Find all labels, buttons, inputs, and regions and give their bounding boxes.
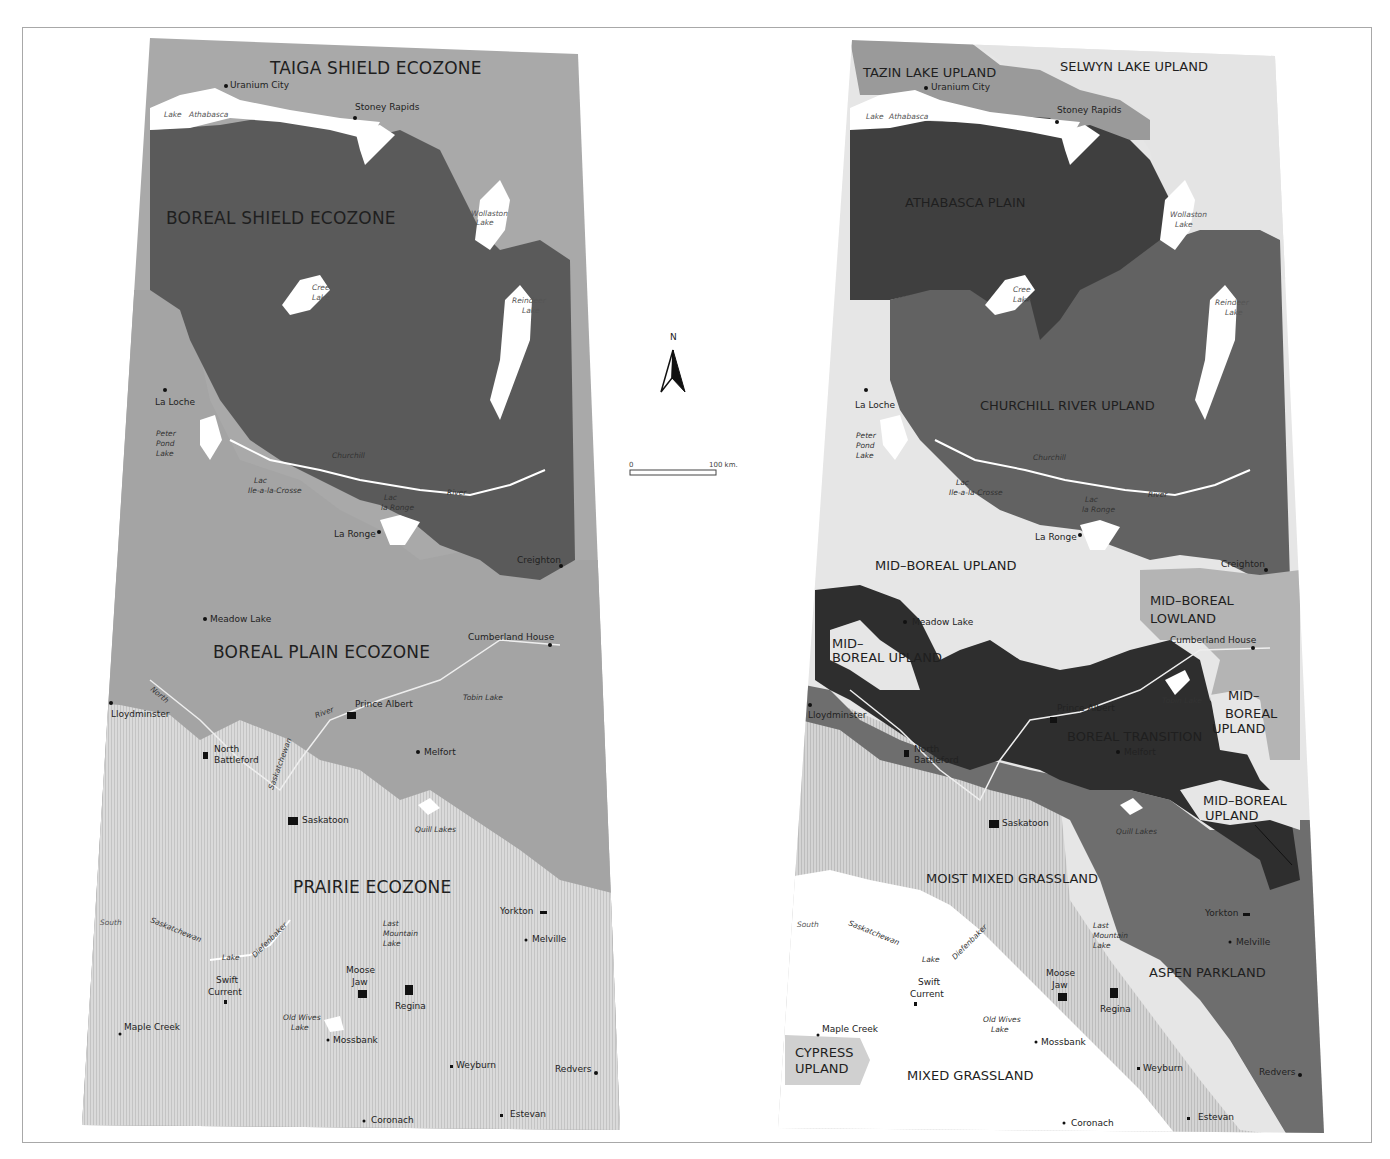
zone-label: SELWYN LAKE UPLAND	[1060, 59, 1208, 74]
city-label: Weyburn	[1143, 1063, 1183, 1073]
water-label: Lake	[383, 939, 401, 948]
water-label: Quill Lakes	[415, 825, 456, 834]
city-label: Yorkton	[499, 906, 533, 916]
water-label: Lake	[312, 293, 330, 302]
city-label: Current	[208, 987, 242, 997]
zone-label: MIXED GRASSLAND	[907, 1068, 1033, 1083]
city-label: Maple Creek	[124, 1022, 181, 1032]
water-label: Pond	[156, 439, 175, 448]
city-label: Jaw	[351, 977, 368, 987]
city-label: Stoney Rapids	[1057, 105, 1122, 115]
city-label: Jaw	[1051, 980, 1068, 990]
water-label: Lake	[1225, 308, 1243, 317]
water-label: Wollaston	[1170, 210, 1207, 219]
city-label: Battleford	[914, 755, 959, 765]
city-label: Creighton	[517, 555, 561, 565]
city-label: Estevan	[1198, 1112, 1234, 1122]
city-label: Weyburn	[456, 1060, 496, 1070]
city-label: Coronach	[1071, 1118, 1114, 1128]
water-label: Old Wives	[283, 1013, 321, 1022]
city-label: Prince Albert	[1057, 703, 1115, 713]
water-label: Lake	[1093, 941, 1111, 950]
water-label: Lake	[1175, 220, 1193, 229]
zone-label: CYPRESS	[795, 1045, 853, 1060]
city-label: Prince Albert	[355, 699, 413, 709]
water-label: Mountain	[383, 929, 418, 938]
water-label: Lake	[866, 112, 884, 121]
zone-label: ASPEN PARKLAND	[1149, 965, 1266, 980]
zone-label: MID–BOREAL	[1150, 593, 1235, 608]
water-label: Churchill	[332, 451, 366, 460]
water-label: Reindeer	[512, 296, 547, 305]
city-label: Meadow Lake	[210, 614, 272, 624]
north-arrow-icon	[661, 350, 673, 392]
water-label: Peter	[856, 431, 877, 440]
city-label: North	[214, 744, 239, 754]
north-arrow: N	[661, 332, 685, 392]
water-label: South	[100, 918, 122, 927]
water-label: Tobin Lake	[463, 693, 503, 702]
city-label: Melville	[532, 934, 567, 944]
city-label: Saskatoon	[302, 815, 349, 825]
city-label: Melfort	[1124, 747, 1156, 757]
city-label: Meadow Lake	[912, 617, 974, 627]
water-label: Lake	[164, 110, 182, 119]
water-label: Athabasca	[188, 110, 229, 119]
water-label: Last	[1093, 921, 1110, 930]
water-label: la Ronge	[1082, 505, 1115, 514]
zone-label: MID–BOREAL UPLAND	[875, 558, 1017, 573]
water-label: la Ronge	[381, 503, 414, 512]
city-label: Saskatoon	[1002, 818, 1049, 828]
water-label: South	[797, 920, 819, 929]
city-label: North	[914, 744, 939, 754]
water-label: Lake	[856, 451, 874, 460]
water-label: Cree	[312, 283, 330, 292]
water-label: Reindeer	[1215, 298, 1250, 307]
water-label: Lac	[1085, 495, 1099, 504]
scale-end: 100 km.	[709, 461, 738, 469]
city-label: Mossbank	[1041, 1037, 1087, 1047]
zone-label: ATHABASCA PLAIN	[905, 195, 1026, 210]
city-label: Redvers	[555, 1064, 592, 1074]
water-label: Athabasca	[888, 112, 929, 121]
zone-label: MID–BOREAL	[1203, 793, 1288, 808]
water-label: River	[447, 488, 467, 497]
city-label: Creighton	[1221, 559, 1265, 569]
water-label: Peter	[156, 429, 177, 438]
city-label: Current	[910, 989, 944, 999]
zone-label: BOREAL TRANSITION	[1067, 729, 1202, 744]
city-label: Estevan	[510, 1109, 546, 1119]
zone-label: BOREAL UPLAND	[832, 650, 942, 665]
city-label: Moose	[1046, 968, 1075, 978]
region-cypress-upland-2	[785, 1035, 870, 1085]
water-label: Ile-a-la-Crosse	[248, 486, 302, 495]
city-label: Yorkton	[1204, 908, 1238, 918]
water-label: River	[1148, 490, 1168, 499]
water-label: Lake	[222, 953, 240, 962]
zone-label: UPLAND	[1205, 808, 1259, 823]
water-label: Mountain	[1093, 931, 1128, 940]
zone-label: CHURCHILL RIVER UPLAND	[980, 398, 1155, 413]
city-label: Uranium City	[931, 82, 991, 92]
city-label: Melville	[1236, 937, 1271, 947]
water-label: Last	[383, 919, 400, 928]
city-label: Lloydminster	[111, 709, 170, 719]
city-label: Cumberland House	[468, 632, 555, 642]
water-label: Churchill	[1033, 453, 1067, 462]
city-label: Battleford	[214, 755, 259, 765]
city-label: Regina	[1100, 1004, 1131, 1014]
city-label: Maple Creek	[822, 1024, 879, 1034]
zone-label: PRAIRIE ECOZONE	[293, 877, 451, 897]
water-label: Wollaston	[471, 209, 508, 218]
water-label: Cree	[1013, 285, 1031, 294]
scale-start: 0	[629, 461, 633, 469]
city-label: Moose	[346, 965, 375, 975]
city-label: Coronach	[371, 1115, 414, 1125]
zone-label: MID–	[832, 636, 864, 651]
city-label: La Loche	[855, 400, 895, 410]
city-label: Regina	[395, 1001, 426, 1011]
water-label: Quill Lakes	[1116, 827, 1157, 836]
water-label: Lac	[956, 478, 970, 487]
city-label: Swift	[216, 975, 239, 985]
north-label: N	[670, 332, 677, 342]
